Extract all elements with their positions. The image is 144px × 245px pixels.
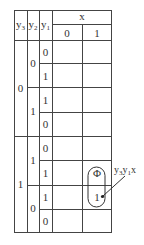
grouping-overlay: [0, 0, 144, 245]
grouping-label: y3y1x: [114, 164, 144, 179]
arrow-dot: [101, 195, 104, 198]
grouping-oval: [88, 167, 105, 207]
grouping-arrow: [103, 176, 125, 196]
label-x-var: x: [131, 164, 136, 175]
